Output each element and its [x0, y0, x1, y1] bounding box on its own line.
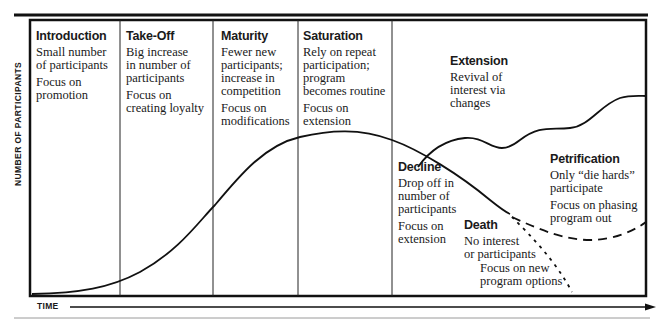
- stage-introduction: Introduction Small number of participant…: [36, 29, 118, 106]
- stage-death: Death No interest or participants: [464, 218, 544, 265]
- stage-title: Petrification: [550, 152, 645, 166]
- stage-description: Drop off in number of participants: [398, 177, 478, 216]
- stage-focus: Focus on new program options: [480, 262, 570, 288]
- stage-title: Death: [464, 218, 544, 232]
- y-axis-label: NUMBER OF PARTICIPANTS: [13, 62, 23, 186]
- stage-focus: Focus on promotion: [36, 76, 118, 102]
- stage-title: Extension: [450, 54, 550, 68]
- death-focus-note: Focus on new program options: [480, 262, 570, 292]
- stage-focus: Focus on extension: [303, 102, 391, 128]
- stage-saturation: Saturation Rely on repeat participation;…: [303, 29, 391, 132]
- stage-take-off: Take-Off Big increase in number of parti…: [126, 29, 212, 119]
- stage-description: Small number of participants: [36, 46, 118, 72]
- stage-title: Decline: [398, 160, 478, 174]
- stage-title: Take-Off: [126, 29, 212, 43]
- stage-description: Revival of interest via changes: [450, 71, 550, 110]
- stage-title: Maturity: [221, 29, 297, 43]
- stage-extension: Extension Revival of interest via change…: [450, 54, 550, 114]
- stage-description: Only “die hards” participate: [550, 169, 645, 195]
- stage-description: Rely on repeat participation; program be…: [303, 46, 391, 98]
- stage-description: No interest or participants: [464, 235, 544, 261]
- stage-focus: Focus on modifications: [221, 102, 297, 128]
- stage-description: Big increase in number of participants: [126, 46, 212, 85]
- stage-description: Fewer new participants; increase in comp…: [221, 46, 297, 98]
- stage-petrification: Petrification Only “die hards” participa…: [550, 152, 645, 229]
- stage-focus: Focus on phasing program out: [550, 199, 645, 225]
- stage-maturity: Maturity Fewer new participants; increas…: [221, 29, 297, 132]
- stage-title: Introduction: [36, 29, 118, 43]
- x-axis-label: TIME: [37, 301, 59, 311]
- stage-title: Saturation: [303, 29, 391, 43]
- time-arrow-head: [645, 304, 656, 311]
- stage-focus: Focus on creating loyalty: [126, 89, 212, 115]
